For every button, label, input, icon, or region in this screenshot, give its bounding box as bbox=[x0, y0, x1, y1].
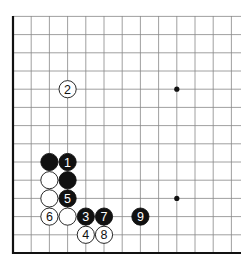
go-board: 215637948 bbox=[0, 0, 249, 262]
black-stone-5: 5 bbox=[59, 190, 76, 207]
black-stone-7: 7 bbox=[95, 208, 112, 225]
move-number: 9 bbox=[137, 210, 144, 224]
black-stone bbox=[41, 153, 58, 170]
move-number: 2 bbox=[64, 83, 71, 97]
black-stone-3: 3 bbox=[77, 208, 94, 225]
white-stone-8: 8 bbox=[95, 226, 112, 243]
move-number: 8 bbox=[101, 228, 108, 242]
move-number: 3 bbox=[82, 210, 89, 224]
white-stone bbox=[41, 190, 58, 207]
white-stone-6: 6 bbox=[41, 208, 58, 225]
star-point-icon bbox=[174, 196, 179, 201]
white-stone bbox=[41, 172, 58, 189]
white-stone-2: 2 bbox=[59, 81, 76, 98]
black-stone-1: 1 bbox=[59, 153, 76, 170]
white-stone bbox=[59, 208, 76, 225]
move-number: 6 bbox=[46, 210, 53, 224]
black-stone bbox=[59, 172, 76, 189]
white-stone-4: 4 bbox=[77, 226, 94, 243]
move-number: 7 bbox=[101, 210, 108, 224]
move-number: 4 bbox=[82, 228, 89, 242]
move-number: 1 bbox=[64, 156, 71, 170]
star-point-icon bbox=[174, 87, 179, 92]
black-stone-9: 9 bbox=[132, 208, 149, 225]
move-number: 5 bbox=[64, 192, 71, 206]
